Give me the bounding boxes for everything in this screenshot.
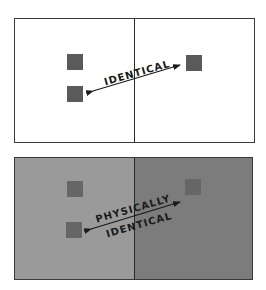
top-label: IDENTICAL — [103, 58, 172, 87]
annotation-layer: IDENTICAL PHYSICALLY IDENTICAL — [0, 0, 266, 290]
